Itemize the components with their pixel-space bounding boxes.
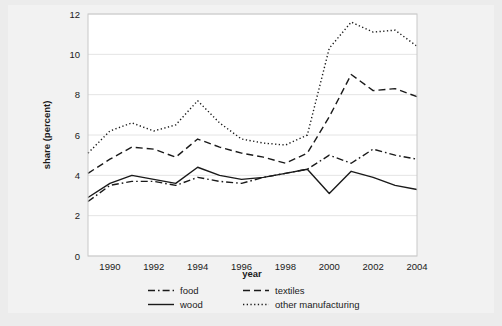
- y-tick-label: 4: [75, 170, 80, 181]
- legend-label-other-manufacturing: other manufacturing: [275, 299, 360, 310]
- x-tick-label: 2002: [363, 261, 384, 272]
- line-chart: 024681012 199019921994199619982000200220…: [0, 0, 502, 326]
- x-tick-label: 1992: [143, 261, 164, 272]
- x-tick-label: 2004: [406, 261, 427, 272]
- x-tick-label: 1990: [99, 261, 120, 272]
- y-tick-label: 6: [75, 130, 80, 141]
- chart-figure: 024681012 199019921994199619982000200220…: [0, 0, 502, 326]
- legend-label-food: food: [180, 285, 199, 296]
- y-axis-tick-labels: 024681012: [69, 9, 80, 262]
- legend-label-wood: wood: [179, 299, 203, 310]
- legend-label-textiles: textiles: [275, 285, 305, 296]
- y-tick-label: 12: [69, 9, 80, 20]
- x-tick-label: 2000: [319, 261, 340, 272]
- x-tick-label: 1998: [275, 261, 296, 272]
- x-tick-label: 1994: [187, 261, 208, 272]
- y-tick-label: 2: [75, 210, 80, 221]
- legend: foodtextileswoodother manufacturing: [148, 285, 360, 310]
- x-axis-tick-labels: 19901992199419961998200020022004: [99, 261, 427, 272]
- y-tick-label: 0: [75, 251, 80, 262]
- y-tick-label: 10: [69, 49, 80, 60]
- y-tick-label: 8: [75, 89, 80, 100]
- x-axis-title: year: [242, 268, 262, 279]
- y-axis-title: share (percent): [41, 101, 52, 170]
